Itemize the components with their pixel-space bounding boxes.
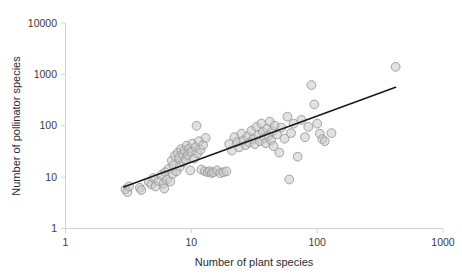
x-tick-label: 1000 <box>431 236 455 248</box>
data-point <box>391 62 400 71</box>
data-point <box>327 129 336 138</box>
x-axis-ticks <box>66 229 444 234</box>
y-tick-label: 1 <box>51 222 57 234</box>
data-point <box>320 137 329 146</box>
scatter-plot: 110100100010000 1101001000 Number of pla… <box>0 0 462 276</box>
data-point <box>222 167 231 176</box>
data-point <box>285 175 294 184</box>
x-tick-label: 100 <box>308 236 326 248</box>
data-point <box>275 148 284 157</box>
data-point <box>307 81 316 90</box>
y-tick-label: 10000 <box>28 17 57 29</box>
data-point <box>293 152 302 161</box>
chart-figure: 110100100010000 1101001000 Number of pla… <box>0 0 462 276</box>
x-axis: 1101001000 <box>63 229 455 249</box>
x-axis-title: Number of plant species <box>195 256 314 268</box>
y-axis-ticks <box>61 23 66 229</box>
data-point <box>287 129 296 138</box>
data-point <box>313 119 322 128</box>
data-point <box>310 100 319 109</box>
x-tick-label: 10 <box>185 236 197 248</box>
y-axis: 110100100010000 <box>28 17 66 235</box>
x-axis-tick-labels: 1101001000 <box>63 236 455 248</box>
data-point <box>304 122 313 131</box>
y-tick-label: 100 <box>39 119 57 131</box>
data-point <box>186 166 195 175</box>
y-axis-tick-labels: 110100100010000 <box>28 17 57 235</box>
y-axis-title: Number of pollinator species <box>10 56 22 196</box>
data-point-group <box>121 62 400 196</box>
x-tick-label: 1 <box>63 236 69 248</box>
y-tick-label: 10 <box>45 171 57 183</box>
data-point <box>201 134 210 143</box>
data-point <box>283 112 292 121</box>
y-tick-label: 1000 <box>34 68 58 80</box>
data-point <box>137 186 146 195</box>
regression-trend-line <box>124 87 396 187</box>
data-point <box>192 121 201 130</box>
data-point <box>301 133 310 142</box>
